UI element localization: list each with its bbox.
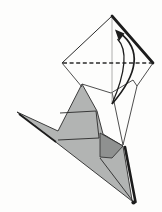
diamond-top-left-edge: [62, 16, 112, 63]
back-layer-right-edge-upper: [137, 63, 153, 86]
flap-bottom-corner: [133, 80, 137, 86]
bottom-tip-blob: [131, 200, 135, 204]
diamond-lower-left-edge: [62, 63, 82, 87]
origami-diagram-canvas: [0, 0, 162, 212]
back-layer-right-edge-lower: [123, 86, 137, 145]
fold-arrow-inner-arc: [112, 39, 124, 104]
origami-diagram-figure: [0, 0, 162, 212]
fold-arrow-head: [115, 30, 125, 42]
